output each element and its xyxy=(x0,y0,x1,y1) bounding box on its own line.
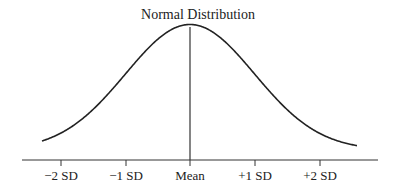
x-tick-label: +2 SD xyxy=(303,168,337,184)
normal-curve xyxy=(42,25,357,146)
normal-distribution-chart xyxy=(0,0,396,194)
x-axis-ticks xyxy=(61,160,320,166)
x-tick-label: +1 SD xyxy=(238,168,272,184)
x-tick-label: Mean xyxy=(175,168,205,184)
x-tick-label: −2 SD xyxy=(44,168,78,184)
x-tick-label: −1 SD xyxy=(109,168,143,184)
chart-title: Normal Distribution xyxy=(0,7,396,23)
